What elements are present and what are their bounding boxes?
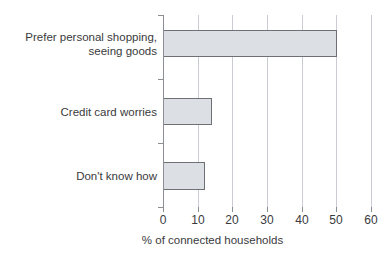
x-tick-60 (371, 207, 372, 212)
x-tick-0 (163, 207, 164, 212)
x-tick-30 (267, 207, 268, 212)
x-tick-label-30: 30 (247, 213, 287, 227)
bar-1[interactable] (163, 98, 212, 125)
x-axis-title: % of connected households (0, 234, 381, 246)
y-tick-2 (158, 143, 163, 144)
bar-0[interactable] (163, 30, 337, 57)
x-tick-label-60: 60 (351, 213, 381, 227)
bar-2[interactable] (163, 162, 205, 190)
category-label-2: Don't know how (76, 169, 157, 183)
x-axis-title-text: % of connected households (98, 234, 283, 246)
x-tick-40 (302, 207, 303, 212)
x-tick-10 (198, 207, 199, 212)
category-label-1: Credit card worries (61, 105, 158, 119)
y-tick-top (158, 15, 163, 16)
y-axis-line (163, 15, 164, 207)
x-tick-label-20: 20 (212, 213, 252, 227)
bar-chart-figure: Prefer personal shopping, seeing goods C… (0, 0, 381, 259)
x-tick-20 (232, 207, 233, 212)
gridline-60 (371, 15, 372, 207)
x-tick-50 (336, 207, 337, 212)
plot-area (163, 15, 371, 207)
y-tick-1 (158, 79, 163, 80)
category-label-0: Prefer personal shopping, seeing goods (25, 30, 157, 58)
x-tick-label-0: 0 (143, 213, 183, 227)
x-tick-label-50: 50 (316, 213, 356, 227)
